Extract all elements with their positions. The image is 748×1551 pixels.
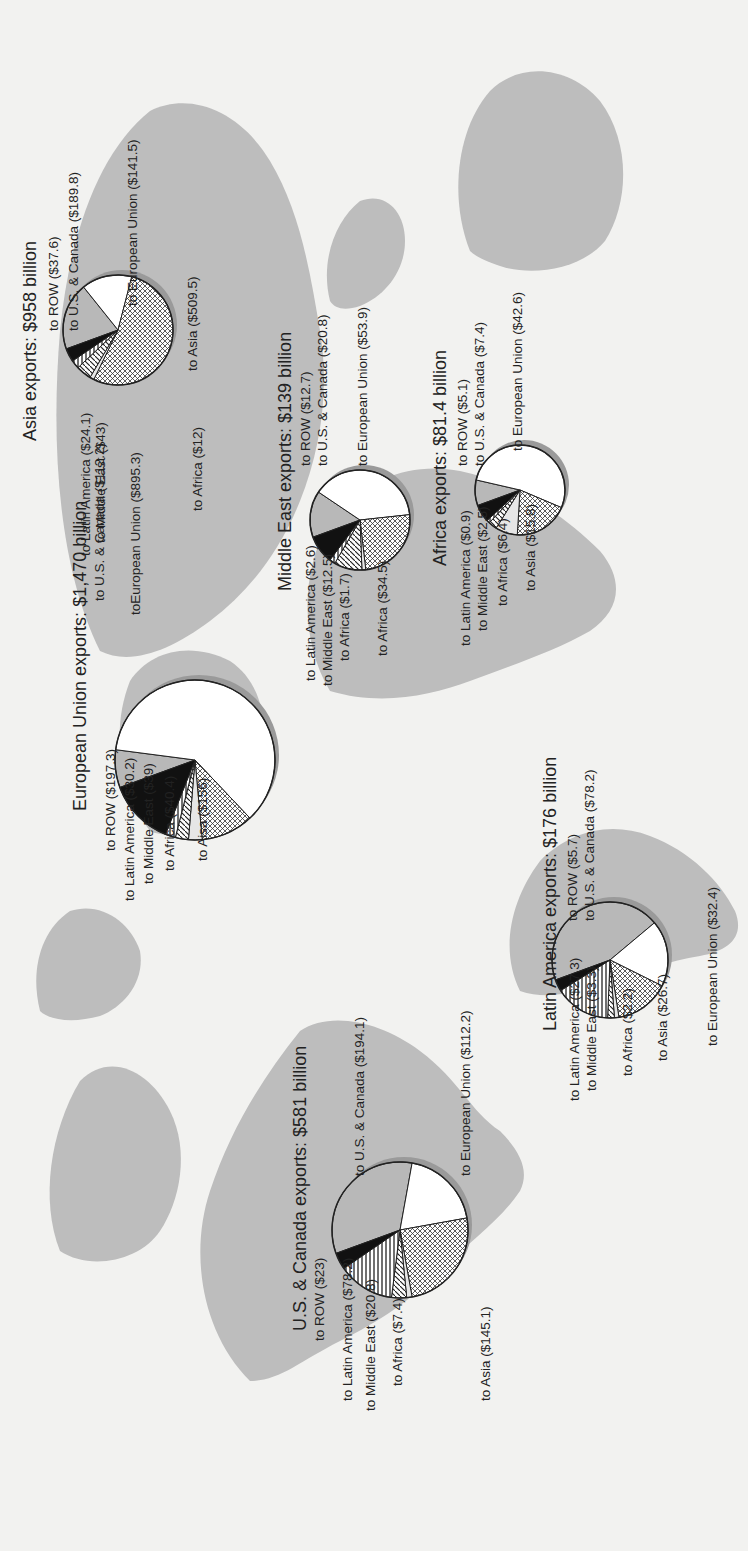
asia-label-africa: to Africa ($12) — [190, 427, 206, 511]
asia-label-eu: to European Union ($141.5) — [125, 139, 141, 306]
africa-label-us-canada: to U.S. & Canada ($7.4) — [472, 322, 488, 466]
africa-label-latin-america: to Latin America ($0.9) — [458, 510, 474, 646]
asia-label-asia: to Asia ($509.5) — [185, 276, 201, 371]
africa-label-asia: to Asia ($15.8) — [523, 504, 539, 591]
us-canada-label-asia: to Asia ($145.1) — [478, 1306, 494, 1401]
africa-label-eu: to European Union ($42.6) — [510, 292, 526, 451]
eu-label-row: to ROW ($197.3) — [103, 749, 119, 851]
middle-east-title: Middle East exports: $139 billion — [275, 332, 296, 591]
eu-label-eu: toEuropean Union ($895.3) — [128, 452, 144, 615]
latin-america-label-eu: to European Union ($32.4) — [705, 887, 721, 1046]
us-canada-label-africa: to Africa ($7.4) — [390, 1298, 406, 1386]
latin-america-label-row: to ROW ($5.7) — [565, 834, 581, 921]
middle-east-label-row: to ROW ($12.7) — [298, 371, 314, 466]
eu-label-africa: to Africa ($40.4) — [162, 776, 178, 871]
asia-title: Asia exports: $958 billion — [20, 241, 41, 441]
asia-label-us-canada: to U.S. & Canada ($189.8) — [66, 172, 82, 331]
us-canada-label-eu: to European Union ($112.2) — [458, 1010, 474, 1176]
us-canada-label-middle-east: to Middle East ($20.8) — [363, 1279, 379, 1411]
latin-america-label-asia: to Asia ($26.7) — [655, 974, 671, 1061]
africa-label-middle-east: to Middle East ($2.5) — [475, 506, 491, 631]
middle-east-label-us-canada: to U.S. & Canada ($20.8) — [315, 314, 331, 466]
us-canada-label-us-canada: to U.S. & Canada ($194.1) — [352, 1017, 368, 1176]
world-map-canvas: Asia exports: $958 billion to ROW ($37.6… — [0, 0, 748, 1551]
eu-title: European Union exports: $1,470 billion — [70, 501, 91, 811]
latin-america-label-middle-east: to Middle East ($3.3) — [584, 966, 600, 1091]
middle-east-label-middle-east: to Middle East ($12.5) — [320, 554, 336, 686]
africa-label-africa: to Africa ($6.4) — [495, 518, 511, 606]
africa-label-row: to ROW ($5.1) — [455, 379, 471, 466]
latin-america-title: Latin America exports: $176 billion — [540, 757, 561, 1031]
eu-label-middle-east: to Middle East ($39) — [141, 763, 157, 884]
middle-east-label-asia: to Africa ($34.5) — [375, 561, 391, 656]
middle-east-label-africa: to Africa ($1.7) — [337, 573, 353, 661]
africa-title: Africa exports: $81.4 billion — [430, 350, 451, 566]
latin-america-label-latin-america: to Latin America ($27.3) — [567, 958, 583, 1101]
middle-east-label-eu: to European Union ($53.9) — [355, 307, 371, 466]
middle-east-label-latin-america: to Latin America ($2.6) — [303, 545, 319, 681]
us-canada-label-row: to ROW ($23) — [312, 1258, 328, 1341]
eu-label-us-canada: to U.S. & Canada ($112.2) — [92, 443, 108, 601]
eu-label-latin-america: to Latin America ($30.2) — [122, 758, 138, 901]
us-canada-label-latin-america: to Latin America ($78.2) — [340, 1258, 356, 1401]
us-canada-title: U.S. & Canada exports: $581 billion — [290, 1046, 311, 1331]
asia-label-row: to ROW ($37.6) — [46, 236, 62, 331]
eu-label-asia: to Aisa ($156) — [195, 778, 211, 861]
latin-america-label-africa: to Africa ($2.2) — [620, 988, 636, 1076]
latin-america-label-us-canada: to U.S. & Canada ($78.2) — [582, 769, 598, 921]
